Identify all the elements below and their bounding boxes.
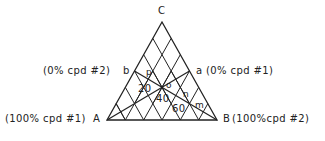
vertex-B-annotation: (100%cpd #2) [232,114,309,124]
point-a-label: a [196,66,203,76]
grid-label-40: 40 [156,94,170,104]
grid-label-20: 20 [138,84,152,94]
point-o-label: o [166,81,172,90]
vertex-B-label: B [223,114,230,124]
point-a-annotation: (0% cpd #1) [206,66,273,76]
point-b-annotation: (0% cpd #2) [43,66,110,76]
point-m-label: m [195,101,204,110]
grid-label-60: 60 [172,104,186,114]
point-p-label: p [146,68,152,77]
ternary-diagram: C (0% cpd #2) b a (0% cpd #1) (100% cpd … [0,0,325,141]
point-b-label: b [123,66,130,76]
point-n-label: n [183,90,189,99]
vertex-A-label: A [93,114,100,124]
vertex-C-label: C [158,6,165,16]
vertex-A-annotation: (100% cpd #1) [5,114,86,124]
